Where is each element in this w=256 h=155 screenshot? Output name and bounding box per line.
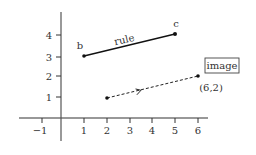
y-tick-label: 1 <box>46 92 52 103</box>
x-tick-labels: −1 1 2 3 4 5 6 <box>33 125 202 136</box>
point-start <box>105 96 109 100</box>
x-tick-label: 4 <box>149 125 155 136</box>
point-end <box>196 74 200 78</box>
x-tick-label: 6 <box>195 125 201 136</box>
x-tick-label: 1 <box>81 125 87 136</box>
x-tick-label: 3 <box>127 125 133 136</box>
coordinate-diagram: −1 1 2 3 4 5 6 1 2 3 4 b c rule (6,2) im… <box>0 0 256 155</box>
y-tick-label: 4 <box>46 30 52 41</box>
point-end-label: (6,2) <box>199 82 223 93</box>
x-tick-label: 5 <box>172 125 178 136</box>
x-ticks <box>42 118 198 123</box>
y-tick-labels: 1 2 3 4 <box>46 30 52 103</box>
point-b <box>82 54 86 58</box>
y-ticks <box>56 35 61 97</box>
x-tick-label: 2 <box>104 125 110 136</box>
point-c-label: c <box>173 18 179 29</box>
point-b-label: b <box>77 40 83 51</box>
x-tick-label: −1 <box>33 125 48 136</box>
image-label: image <box>207 60 238 71</box>
image-vector <box>107 76 198 98</box>
y-tick-label: 2 <box>46 71 52 82</box>
y-tick-label: 3 <box>46 52 52 63</box>
point-c <box>173 32 177 36</box>
